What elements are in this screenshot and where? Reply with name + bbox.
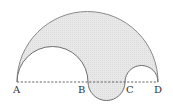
- shaded-region: [17, 12, 158, 101]
- label-A: A: [12, 84, 21, 95]
- label-B: B: [78, 84, 85, 95]
- geometry-figure: A B C D: [0, 0, 173, 104]
- label-C: C: [126, 84, 134, 95]
- figure-canvas: A B C D: [0, 0, 173, 104]
- label-D: D: [154, 84, 162, 95]
